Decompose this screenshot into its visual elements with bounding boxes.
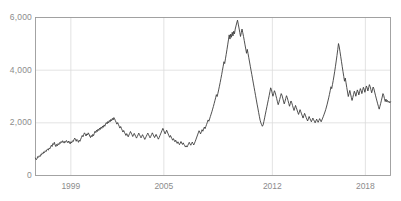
line-chart: 6,000 4,000 2,000 0 1999 2005 2012 2018 (0, 0, 401, 201)
y-tick-label-2000: 2,000 (10, 117, 32, 127)
data-series-line (36, 20, 391, 160)
x-tick-label-2012: 2012 (252, 181, 292, 191)
x-tick-label-2005: 2005 (144, 181, 184, 191)
x-tick-label-2018: 2018 (345, 181, 385, 191)
y-tick-label-0: 0 (27, 170, 32, 180)
x-gridlines (71, 18, 366, 176)
y-tick-label-6000: 6,000 (10, 12, 32, 22)
y-tick-label-4000: 4,000 (10, 65, 32, 75)
plot-frame (36, 18, 391, 176)
x-tick-label-1999: 1999 (51, 181, 91, 191)
chart-plot-area (0, 0, 401, 201)
